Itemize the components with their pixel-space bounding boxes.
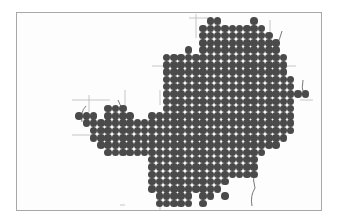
map-dot	[272, 68, 280, 76]
map-dot	[221, 163, 229, 171]
map-dot	[250, 68, 258, 76]
map-dot	[177, 192, 185, 200]
map-dot	[250, 171, 258, 179]
map-dot	[104, 149, 112, 157]
map-dot	[229, 163, 237, 171]
map-dot	[177, 119, 185, 127]
map-dot	[229, 98, 237, 106]
dot-grid-map	[0, 0, 337, 224]
map-dot	[199, 46, 207, 54]
map-dot	[156, 192, 164, 200]
map-dot	[272, 119, 280, 127]
map-dot	[126, 149, 134, 157]
map-dot	[177, 141, 185, 149]
map-dot	[104, 141, 112, 149]
map-dot	[287, 127, 295, 135]
map-dot	[229, 171, 237, 179]
map-dot	[229, 46, 237, 54]
map-dot	[250, 98, 258, 106]
map-dot	[177, 98, 185, 106]
map-dot	[177, 200, 185, 208]
map-dot	[177, 171, 185, 179]
map-dot	[287, 98, 295, 106]
map-dot	[126, 119, 134, 127]
map-dot	[156, 200, 164, 208]
map-dot	[229, 25, 237, 33]
map-dot	[221, 46, 229, 54]
map-dot	[229, 119, 237, 127]
map-dot	[214, 17, 222, 25]
map-dot	[229, 141, 237, 149]
map-dot	[250, 17, 258, 25]
map-dot	[148, 141, 156, 149]
map-dot	[272, 46, 280, 54]
map-dot	[199, 192, 207, 200]
map-dot	[199, 119, 207, 127]
map-dot	[221, 192, 229, 200]
map-dot	[272, 90, 280, 98]
map-dot	[148, 163, 156, 171]
map-dot	[185, 46, 193, 54]
map-dot	[258, 25, 266, 33]
map-dot	[214, 185, 222, 193]
map-dot	[272, 141, 280, 149]
map-dot	[199, 90, 207, 98]
map-dot	[75, 112, 83, 120]
map-dot	[156, 163, 164, 171]
map-dot	[250, 46, 258, 54]
map-dot	[126, 141, 134, 149]
map-dot	[177, 68, 185, 76]
map-dot	[199, 98, 207, 106]
map-dot	[250, 141, 258, 149]
map-dot	[221, 98, 229, 106]
map-dot	[221, 90, 229, 98]
map-dot	[199, 141, 207, 149]
map-dot	[199, 200, 207, 208]
map-dot	[250, 90, 258, 98]
map-dot	[221, 178, 229, 186]
map-dot	[294, 90, 302, 98]
map-dot	[221, 68, 229, 76]
map-dot	[258, 149, 266, 157]
map-dot	[148, 171, 156, 179]
map-dot	[302, 90, 310, 98]
map-dot	[221, 25, 229, 33]
map-dot	[156, 119, 164, 127]
map-dot	[280, 134, 288, 142]
map-dot	[250, 163, 258, 171]
map-dot	[148, 119, 156, 127]
map-dot	[280, 68, 288, 76]
map-dot	[199, 68, 207, 76]
map-dot	[221, 171, 229, 179]
map-dot	[199, 25, 207, 33]
map-dot	[221, 119, 229, 127]
map-dot	[185, 200, 193, 208]
map-dot	[229, 90, 237, 98]
map-dot	[156, 141, 164, 149]
map-dot	[156, 171, 164, 179]
map-dot	[177, 163, 185, 171]
map-dot	[250, 119, 258, 127]
map-dot	[148, 185, 156, 193]
map-dot	[250, 25, 258, 33]
map-dot	[221, 141, 229, 149]
map-dot	[272, 98, 280, 106]
map-dot	[83, 119, 91, 127]
map-dot	[185, 192, 193, 200]
map-dot	[177, 90, 185, 98]
map-dot	[229, 68, 237, 76]
map-dot	[199, 171, 207, 179]
map-dot	[104, 119, 112, 127]
map-dot	[207, 192, 215, 200]
map-dot	[199, 163, 207, 171]
map-dot	[287, 119, 295, 127]
